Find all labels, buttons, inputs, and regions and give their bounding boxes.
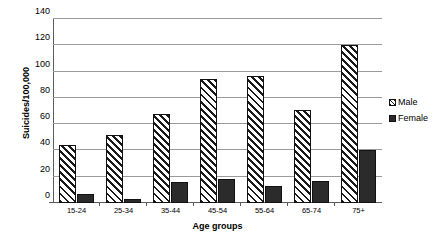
legend-label: Female <box>398 114 428 123</box>
bar-male-25-34 <box>106 135 123 203</box>
bar-group <box>335 19 382 203</box>
bar-group <box>100 19 147 203</box>
bar-female-15-24 <box>77 194 94 203</box>
x-axis-title: Age groups <box>53 221 382 231</box>
x-axis-tick-label: 35-44 <box>147 206 194 215</box>
legend-item-female: Female <box>389 112 428 125</box>
x-axis-tick-label: 45-54 <box>194 206 241 215</box>
solid-swatch <box>389 115 396 122</box>
x-axis-tick-label: 65-74 <box>288 206 335 215</box>
bar-group <box>288 19 335 203</box>
bar-male-55-64 <box>247 76 264 203</box>
x-axis-tick-label: 75+ <box>335 206 382 215</box>
bar-group <box>147 19 194 203</box>
x-axis-tick-label: 15-24 <box>53 206 100 215</box>
bar-female-55-64 <box>265 186 282 203</box>
bar-female-75+ <box>359 150 376 203</box>
hatched-swatch <box>389 99 396 106</box>
bar-male-35-44 <box>153 114 170 203</box>
legend-item-male: Male <box>389 96 428 109</box>
y-axis-tick-label: 0 <box>30 191 50 200</box>
bar-group <box>241 19 288 203</box>
x-axis-tick-label: 55-64 <box>241 206 288 215</box>
y-axis-tick-label: 20 <box>30 165 50 174</box>
y-axis-tick-label: 140 <box>30 7 50 16</box>
x-axis-tick-labels: 15-2425-3435-4445-5455-6465-7475+ <box>53 206 382 215</box>
bar-male-15-24 <box>59 145 76 203</box>
bar-chart: Suicides/100,000 020406080100120140 15-2… <box>0 0 444 242</box>
bar-male-45-54 <box>200 79 217 203</box>
bar-female-25-34 <box>124 199 141 203</box>
plot-area <box>53 19 382 203</box>
y-axis-tick-label: 60 <box>30 112 50 121</box>
y-axis-tick-label: 80 <box>30 86 50 95</box>
bar-group <box>53 19 100 203</box>
bar-male-65-74 <box>294 110 311 203</box>
y-axis-tick-labels: 020406080100120140 <box>30 14 50 204</box>
bar-female-65-74 <box>312 181 329 203</box>
bar-female-45-54 <box>218 179 235 203</box>
chart-legend: MaleFemale <box>389 96 428 128</box>
bar-female-35-44 <box>171 182 188 203</box>
bar-group <box>194 19 241 203</box>
x-axis-tick-label: 25-34 <box>100 206 147 215</box>
y-axis-tick-label: 120 <box>30 33 50 42</box>
y-axis-tick-label: 40 <box>30 138 50 147</box>
bar-male-75+ <box>341 45 358 203</box>
y-axis-tick-label: 100 <box>30 60 50 69</box>
bar-groups <box>53 19 382 203</box>
legend-label: Male <box>398 98 418 107</box>
